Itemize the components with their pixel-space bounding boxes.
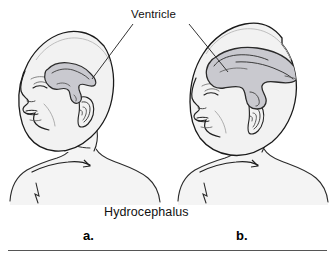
panel-b-label: b. [236, 229, 248, 242]
ventricle-annotation-label: Ventricle [131, 9, 176, 21]
panel-a-torso [10, 149, 160, 205]
panel-b-illustration [178, 23, 328, 205]
panel-a-illustration [10, 31, 160, 205]
panel-a-head-outline [19, 31, 114, 151]
panel-a-label: a. [83, 229, 94, 242]
hydrocephalus-figure: Ventricle Hydrocephalus a. b. [0, 0, 335, 256]
figure-caption: Hydrocephalus [104, 206, 189, 219]
panel-b-torso [178, 149, 328, 205]
